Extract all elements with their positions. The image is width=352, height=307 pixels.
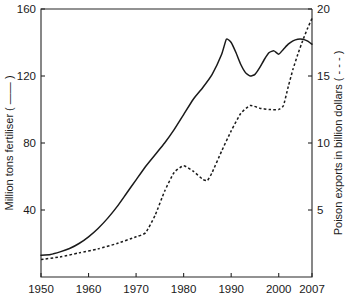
data-series xyxy=(41,18,312,259)
y-axis-right-ticks: 5101520 xyxy=(308,3,330,216)
x-axis-tick-label: 1960 xyxy=(76,283,102,295)
y-axis-left-tick-label: 80 xyxy=(23,137,36,149)
y-axis-right-tick-label: 15 xyxy=(317,70,330,82)
y-axis-left-tick-label: 120 xyxy=(17,70,36,82)
y-axis-right-tick-label: 20 xyxy=(317,3,330,15)
x-axis-ticks: 1950196019701980199020002007 xyxy=(28,273,325,295)
y-axis-left-title: Million tons fertiliser ( —— ) xyxy=(3,75,15,210)
plot-frame xyxy=(41,9,312,277)
series-fertiliser-line xyxy=(41,39,312,255)
x-axis-tick-label: 2007 xyxy=(299,283,325,295)
x-axis-tick-label: 1950 xyxy=(28,283,54,295)
series-poison-exports-line xyxy=(41,18,312,259)
y-axis-right-tick-label: 10 xyxy=(317,137,330,149)
chart-container: 4080120160 5101520 195019601970198019902… xyxy=(0,0,352,307)
y-axis-right-title: Poison exports in billion dollars ( - - … xyxy=(332,51,344,236)
x-axis-tick-label: 1970 xyxy=(123,283,149,295)
y-axis-left-tick-label: 40 xyxy=(23,204,36,216)
axis-labels: Million tons fertiliser ( —— ) Poison ex… xyxy=(3,51,344,236)
x-axis-tick-label: 2000 xyxy=(266,283,292,295)
x-axis-tick-label: 1980 xyxy=(171,283,197,295)
x-axis-tick-label: 1990 xyxy=(218,283,244,295)
y-axis-left-tick-label: 160 xyxy=(17,3,36,15)
y-axis-right-tick-label: 5 xyxy=(317,204,323,216)
line-chart: 4080120160 5101520 195019601970198019902… xyxy=(0,0,352,307)
